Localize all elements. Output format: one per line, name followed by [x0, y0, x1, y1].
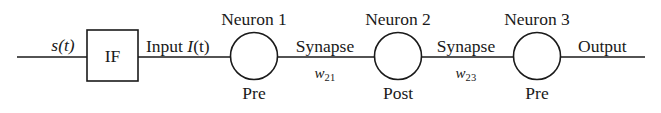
- neuron-2-role: Post: [383, 85, 413, 103]
- synapse-21-label: Synapse: [296, 38, 354, 56]
- if-block-label: IF: [105, 46, 121, 67]
- synapse-21-weight-var: w: [315, 65, 325, 81]
- output-label: Output: [578, 38, 627, 56]
- input-current-arg: (t): [193, 36, 210, 56]
- neuron-1-title: Neuron 1: [221, 11, 287, 29]
- synapse-21-weight-subscript: 21: [325, 72, 336, 83]
- input-current-label: Input I(t): [146, 38, 210, 56]
- neural-network-diagram: IF s(t) Input I(t) Neuron 1 Pre Synapse …: [0, 0, 661, 113]
- neuron-1-role: Pre: [242, 85, 265, 103]
- synapse-23-weight-subscript: 23: [466, 72, 477, 83]
- input-signal-label: s(t): [51, 37, 74, 55]
- neuron-3-node: [514, 33, 561, 80]
- neuron-1-node: [231, 33, 278, 80]
- input-signal-var: s: [51, 35, 58, 55]
- input-current-prefix: Input: [146, 36, 187, 56]
- synapse-23-weight: w23: [456, 66, 477, 81]
- input-signal-arg: (t): [58, 35, 75, 55]
- synapse-21-weight: w21: [315, 66, 336, 81]
- neuron-3-title: Neuron 3: [504, 11, 570, 29]
- synapse-23-label: Synapse: [437, 38, 495, 56]
- neuron-2-node: [375, 33, 422, 80]
- neuron-3-role: Pre: [525, 85, 548, 103]
- synapse-23-weight-var: w: [456, 65, 466, 81]
- neuron-2-title: Neuron 2: [365, 11, 431, 29]
